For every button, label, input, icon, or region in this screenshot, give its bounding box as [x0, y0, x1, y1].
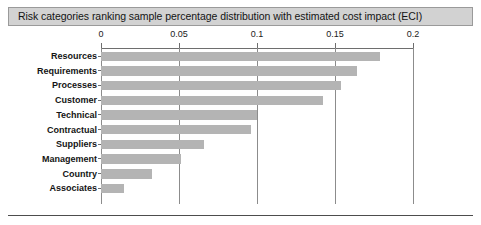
category-label-management: Management	[42, 152, 97, 167]
bar-row: Processes	[0, 78, 481, 93]
bar-row: Customer	[0, 93, 481, 108]
bar-row: Associates	[0, 181, 481, 196]
bar-row: Resources	[0, 49, 481, 64]
bar-rows: ResourcesRequirementsProcessesCustomerTe…	[0, 49, 481, 205]
page-title: Risk categories ranking sample percentag…	[9, 11, 422, 22]
category-label-suppliers: Suppliers	[56, 137, 97, 152]
bar-management	[101, 154, 181, 163]
bar-requirements	[101, 66, 357, 75]
bar-row: Country	[0, 167, 481, 182]
bar-row: Requirements	[0, 64, 481, 79]
x-tick-label-0.05: 0.05	[170, 30, 188, 39]
category-label-country: Country	[63, 167, 98, 182]
category-label-resources: Resources	[51, 49, 97, 64]
bar-suppliers	[101, 140, 204, 149]
bottom-divider	[8, 215, 473, 216]
category-label-contractual: Contractual	[47, 123, 97, 138]
bar-technical	[101, 110, 257, 119]
bar-row: Contractual	[0, 123, 481, 138]
category-label-requirements: Requirements	[37, 64, 97, 79]
bar-customer	[101, 96, 323, 105]
chart-figure: Risk categories ranking sample percentag…	[0, 0, 481, 225]
bar-associates	[101, 184, 124, 193]
x-tick-label-0: 0	[98, 30, 103, 39]
bar-resources	[101, 52, 380, 61]
chart-title-band: Risk categories ranking sample percentag…	[8, 7, 473, 26]
category-label-processes: Processes	[52, 78, 97, 93]
bar-contractual	[101, 125, 251, 134]
category-label-associates: Associates	[49, 181, 97, 196]
x-tick-label-0.15: 0.15	[326, 30, 344, 39]
category-label-technical: Technical	[56, 108, 97, 123]
bar-row: Technical	[0, 108, 481, 123]
category-label-customer: Customer	[55, 93, 97, 108]
x-tick-label-0.2: 0.2	[407, 30, 420, 39]
x-tick-label-0.1: 0.1	[251, 30, 264, 39]
bar-row: Management	[0, 152, 481, 167]
bar-processes	[101, 81, 341, 90]
bar-row: Suppliers	[0, 137, 481, 152]
plot-area: 00.050.10.150.2 ResourcesRequirementsPro…	[0, 30, 481, 208]
bar-country	[101, 169, 152, 178]
